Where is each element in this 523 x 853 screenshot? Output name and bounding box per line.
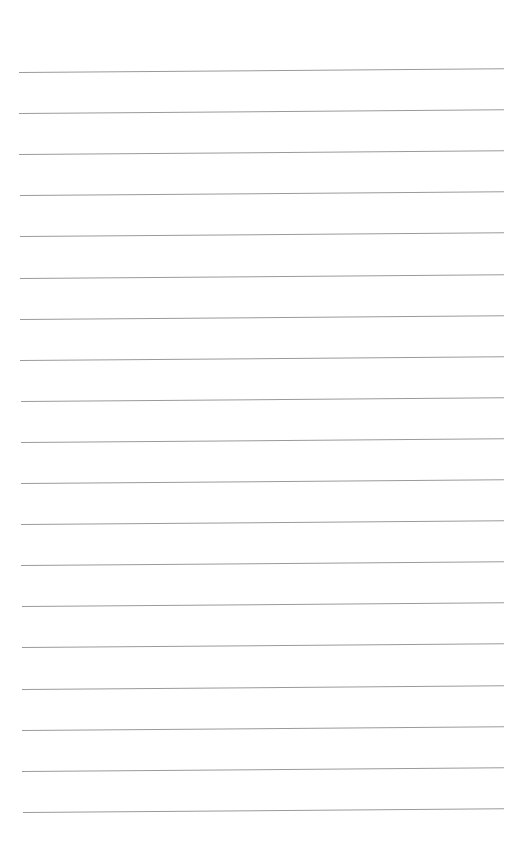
ruled-line <box>22 685 504 690</box>
ruled-line <box>21 438 504 443</box>
lined-paper-page <box>0 0 523 853</box>
ruled-line <box>21 520 504 525</box>
ruled-line <box>23 808 504 813</box>
ruled-line <box>19 68 504 73</box>
ruled-line <box>21 479 504 484</box>
ruled-line <box>22 767 504 772</box>
ruled-line <box>20 356 504 361</box>
ruled-line <box>22 644 504 649</box>
ruled-line <box>22 726 504 731</box>
ruled-line <box>21 397 504 402</box>
ruled-line <box>19 150 504 155</box>
ruled-line <box>20 191 504 196</box>
ruled-line <box>20 233 504 238</box>
ruled-line <box>21 561 504 566</box>
ruled-line <box>20 274 504 279</box>
ruled-line <box>22 603 504 608</box>
ruled-line <box>19 109 504 114</box>
ruled-line <box>20 315 504 320</box>
